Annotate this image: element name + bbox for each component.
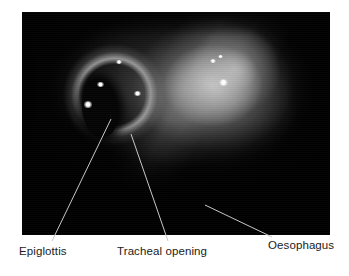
label-oesophagus: Oesophagus bbox=[268, 239, 334, 252]
annotated-endoscopy-figure: Epiglottis Tracheal opening Oesophagus bbox=[0, 0, 349, 276]
label-tracheal-opening: Tracheal opening bbox=[117, 245, 207, 258]
label-epiglottis: Epiglottis bbox=[19, 245, 67, 258]
scanline-texture bbox=[22, 12, 330, 235]
endoscopic-photograph bbox=[22, 12, 330, 235]
